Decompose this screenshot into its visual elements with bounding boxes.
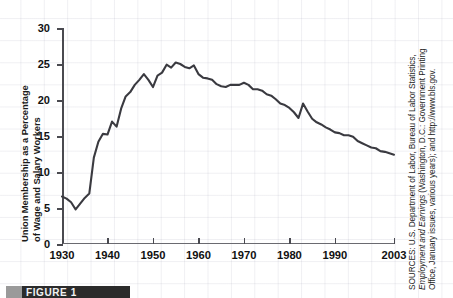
x-axis-tick-label: 1960 bbox=[186, 249, 211, 261]
union-membership-line-chart: Union Membership as a Percentage of Wage… bbox=[0, 0, 453, 298]
y-axis-title-line-1: Union Membership as a Percentage bbox=[19, 85, 30, 242]
plot-area: 051015202530 193019401950196019701980199… bbox=[62, 28, 394, 244]
source-note-line-1: SOURCES: U.S. Department of Labor, Burea… bbox=[408, 55, 417, 290]
y-axis-tick-label: 30 bbox=[38, 22, 50, 34]
x-axis-tick bbox=[394, 238, 395, 244]
x-axis-tick-label: 1970 bbox=[231, 249, 256, 261]
source-note-line-3: Office, January issues, various years); … bbox=[428, 69, 437, 290]
figure-caption-bar: FIGURE 1 bbox=[6, 286, 130, 298]
y-axis-tick-label: 25 bbox=[38, 58, 50, 70]
x-axis-tick-label: 2003 bbox=[382, 249, 407, 261]
y-axis-tick-label: 5 bbox=[44, 202, 50, 214]
y-axis-tick-label: 15 bbox=[38, 130, 50, 142]
data-series-line bbox=[62, 28, 394, 244]
source-publication-title: Employment and Earnings bbox=[417, 195, 427, 290]
x-axis-tick-label: 1980 bbox=[277, 249, 302, 261]
figure-caption-label: FIGURE 1 bbox=[26, 287, 77, 298]
source-note-line-2-rest: (Washington, D.C.: Government Printing bbox=[417, 48, 427, 195]
x-axis-tick-label: 1990 bbox=[322, 249, 347, 261]
x-axis-tick-label: 1950 bbox=[141, 249, 166, 261]
chart-page: Union Membership as a Percentage of Wage… bbox=[0, 0, 453, 298]
y-axis-tick-label: 10 bbox=[38, 166, 50, 178]
y-axis-tick: 0 bbox=[57, 244, 63, 246]
y-axis-tick-label: 20 bbox=[38, 94, 50, 106]
source-note: SOURCES: U.S. Department of Labor, Burea… bbox=[404, 4, 450, 294]
x-axis-tick-label: 1930 bbox=[50, 249, 75, 261]
x-axis-tick-label: 1940 bbox=[95, 249, 120, 261]
y-axis-title: Union Membership as a Percentage of Wage… bbox=[8, 14, 38, 244]
caption-swatch bbox=[6, 286, 22, 298]
source-note-line-2: Employment and Earnings (Washington, D.C… bbox=[418, 48, 427, 290]
